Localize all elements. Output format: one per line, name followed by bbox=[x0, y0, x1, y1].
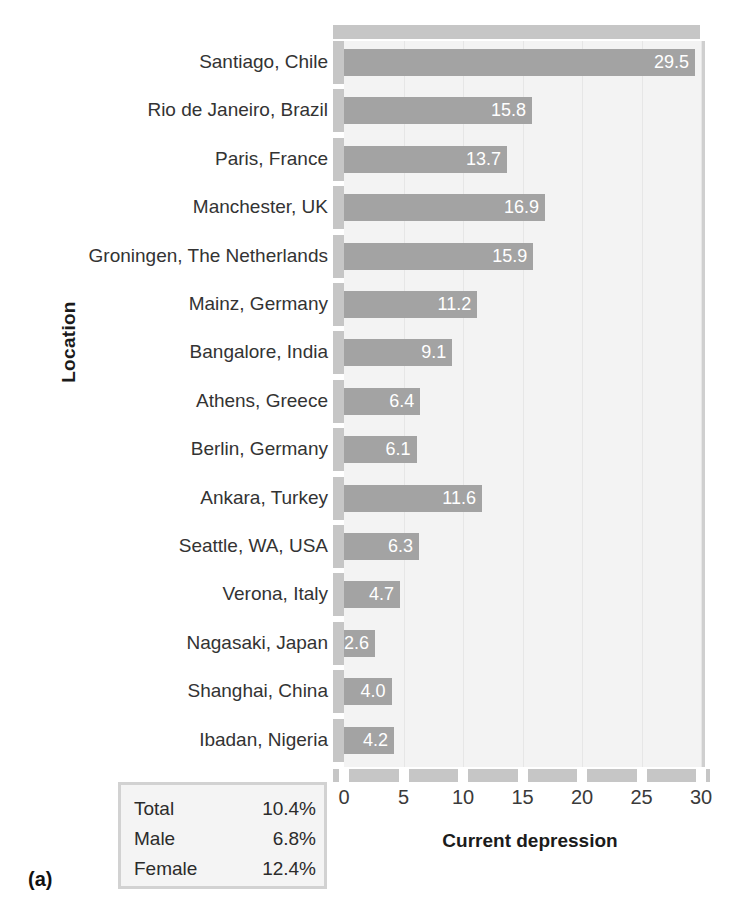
plot-top-axis-strip bbox=[333, 25, 700, 39]
bar-value-label: 6.4 bbox=[389, 388, 414, 415]
summary-row-label: Female bbox=[134, 854, 197, 884]
bar-value-label: 4.7 bbox=[369, 581, 394, 608]
summary-legend-box: Total10.4%Male6.8%Female12.4% bbox=[118, 782, 327, 889]
bar: 15.8 bbox=[344, 97, 532, 124]
y-axis-tick-segment bbox=[333, 428, 344, 471]
summary-row-label: Total bbox=[134, 794, 174, 824]
bar-value-label: 16.9 bbox=[504, 194, 539, 221]
category-label: Verona, Italy bbox=[40, 583, 328, 605]
summary-row: Female12.4% bbox=[134, 854, 316, 884]
gridline bbox=[642, 41, 643, 767]
bar: 29.5 bbox=[344, 49, 695, 76]
x-tick-label: 20 bbox=[559, 786, 605, 809]
category-label: Groningen, The Netherlands bbox=[40, 245, 328, 267]
bar: 4.7 bbox=[344, 581, 400, 608]
bar-value-label: 29.5 bbox=[654, 49, 689, 76]
bar-value-label: 2.6 bbox=[344, 630, 369, 657]
bar: 16.9 bbox=[344, 194, 545, 221]
category-label: Nagasaki, Japan bbox=[40, 632, 328, 654]
category-label: Ibadan, Nigeria bbox=[40, 729, 328, 751]
y-axis-tick-segment bbox=[333, 477, 344, 520]
x-axis-spine bbox=[333, 769, 704, 782]
category-label: Shanghai, China bbox=[40, 680, 328, 702]
panel-caption: (a) bbox=[28, 868, 52, 891]
bar-value-label: 4.0 bbox=[361, 678, 386, 705]
bar: 11.2 bbox=[344, 291, 477, 318]
bar-value-label: 6.1 bbox=[386, 436, 411, 463]
gridline bbox=[701, 41, 702, 767]
bar: 6.3 bbox=[344, 533, 419, 560]
bar-value-label: 4.2 bbox=[363, 727, 388, 754]
bar-value-label: 11.6 bbox=[442, 485, 476, 512]
plot-area: 29.515.813.716.915.911.29.16.46.111.66.3… bbox=[333, 25, 706, 782]
y-axis-tick-segment bbox=[333, 573, 344, 616]
x-axis-title: Current depression bbox=[344, 830, 716, 852]
y-axis-tick-labels: Santiago, ChileRio de Janeiro, BrazilPar… bbox=[40, 25, 328, 770]
bar-value-label: 6.3 bbox=[388, 533, 413, 560]
category-label: Athens, Greece bbox=[40, 390, 328, 412]
bar-value-label: 13.7 bbox=[466, 146, 501, 173]
summary-row-value: 6.8% bbox=[273, 824, 316, 854]
category-label: Berlin, Germany bbox=[40, 438, 328, 460]
summary-row-value: 10.4% bbox=[262, 794, 316, 824]
summary-row: Total10.4% bbox=[134, 794, 316, 824]
y-axis-tick-segment bbox=[333, 622, 344, 665]
x-axis-segment bbox=[468, 769, 518, 782]
x-tick-label: 0 bbox=[321, 786, 367, 809]
category-label: Paris, France bbox=[40, 148, 328, 170]
x-axis-segment bbox=[333, 769, 339, 782]
y-axis-spine bbox=[333, 41, 344, 767]
x-axis-segment bbox=[706, 769, 710, 782]
bar: 6.4 bbox=[344, 388, 420, 415]
bar: 4.0 bbox=[344, 678, 392, 705]
gridline bbox=[582, 41, 583, 767]
bar: 4.2 bbox=[344, 727, 394, 754]
y-axis-tick-segment bbox=[333, 235, 344, 278]
category-label: Bangalore, India bbox=[40, 341, 328, 363]
bar: 13.7 bbox=[344, 146, 507, 173]
bar: 11.6 bbox=[344, 485, 482, 512]
summary-row-value: 12.4% bbox=[262, 854, 316, 884]
category-label: Mainz, Germany bbox=[40, 293, 328, 315]
category-label: Rio de Janeiro, Brazil bbox=[40, 99, 328, 121]
bar: 15.9 bbox=[344, 243, 533, 270]
gridline bbox=[523, 41, 524, 767]
y-axis-tick-segment bbox=[333, 89, 344, 132]
y-axis-tick-segment bbox=[333, 41, 344, 84]
category-label: Santiago, Chile bbox=[40, 51, 328, 73]
bar-value-label: 15.8 bbox=[491, 97, 526, 124]
y-axis-tick-segment bbox=[333, 331, 344, 374]
x-axis-segment bbox=[647, 769, 697, 782]
y-axis-tick-segment bbox=[333, 186, 344, 229]
bar-value-label: 9.1 bbox=[421, 339, 446, 366]
bar: 6.1 bbox=[344, 436, 417, 463]
y-axis-tick-segment bbox=[333, 380, 344, 423]
summary-row-label: Male bbox=[134, 824, 175, 854]
x-tick-label: 30 bbox=[678, 786, 724, 809]
x-axis-segment bbox=[349, 769, 399, 782]
x-tick-label: 25 bbox=[619, 786, 665, 809]
y-axis-tick-segment bbox=[333, 525, 344, 568]
bar-value-label: 15.9 bbox=[492, 243, 527, 270]
summary-row: Male6.8% bbox=[134, 824, 316, 854]
y-axis-tick-segment bbox=[333, 719, 344, 762]
y-axis-tick-segment bbox=[333, 283, 344, 326]
x-axis-segment bbox=[409, 769, 459, 782]
bar: 2.6 bbox=[344, 630, 375, 657]
bar-value-label: 11.2 bbox=[438, 291, 472, 318]
figure-panel-a: Location Santiago, ChileRio de Janeiro, … bbox=[0, 0, 729, 918]
bar: 9.1 bbox=[344, 339, 452, 366]
x-tick-label: 10 bbox=[440, 786, 486, 809]
y-axis-tick-segment bbox=[333, 670, 344, 713]
y-axis-tick-segment bbox=[333, 138, 344, 181]
x-tick-label: 15 bbox=[500, 786, 546, 809]
x-axis-segment bbox=[528, 769, 578, 782]
category-label: Ankara, Turkey bbox=[40, 487, 328, 509]
x-tick-label: 5 bbox=[381, 786, 427, 809]
x-axis-segment bbox=[587, 769, 637, 782]
category-label: Seattle, WA, USA bbox=[40, 535, 328, 557]
category-label: Manchester, UK bbox=[40, 196, 328, 218]
